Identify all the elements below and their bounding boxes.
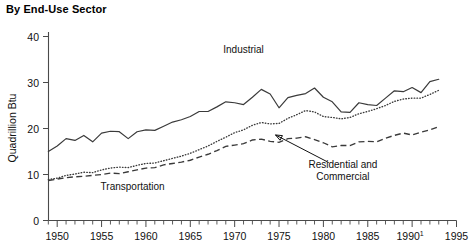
- y-tick-label-20: 20: [27, 123, 39, 135]
- y-tick-label-0: 0: [33, 215, 39, 227]
- y-tick-label-40: 40: [27, 31, 39, 43]
- x-tick-label-1965: 1965: [179, 230, 203, 242]
- x-tick-label-1985: 1985: [356, 230, 380, 242]
- x-tick-label-1960: 1960: [134, 230, 158, 242]
- x-tick-label-1955: 1955: [90, 230, 114, 242]
- chart-root: By End-Use Sector Quadrillion Btu 40 30 …: [0, 0, 471, 252]
- series-label-transportation: Transportation: [101, 181, 165, 192]
- x-tick-label-1990: 19901: [396, 230, 423, 242]
- annotation-arrowhead: [275, 135, 282, 140]
- y-axis-ticks: [43, 37, 49, 221]
- annotation-label-line2: Commercial: [316, 171, 369, 182]
- y-axis-title: Quadrillion Btu: [6, 93, 18, 162]
- series-line-residential-commercial: [48, 127, 438, 181]
- line-chart-plot: Quadrillion Btu 40 30 20 10 0 1950195519…: [0, 0, 471, 252]
- x-axis-ticks: [48, 221, 456, 228]
- series-line-transportation: [48, 90, 438, 179]
- x-tick-label-1980: 1980: [312, 230, 336, 242]
- y-tick-label-30: 30: [27, 77, 39, 89]
- series-label-industrial: Industrial: [223, 44, 264, 55]
- x-tick-label-1950: 1950: [46, 230, 70, 242]
- x-tick-label-1975: 1975: [267, 230, 291, 242]
- x-tick-label-1970: 1970: [223, 230, 247, 242]
- y-tick-label-10: 10: [27, 169, 39, 181]
- x-axis-tick-labels: 1950195519601965197019751980198519901199…: [46, 230, 469, 242]
- x-tick-label-1995: 1995: [445, 230, 469, 242]
- y-axis-tick-labels: 40 30 20 10 0: [27, 31, 39, 227]
- x-tick-footnote-marker: 1: [420, 230, 424, 237]
- annotation-label-line1: Residential and: [308, 159, 377, 170]
